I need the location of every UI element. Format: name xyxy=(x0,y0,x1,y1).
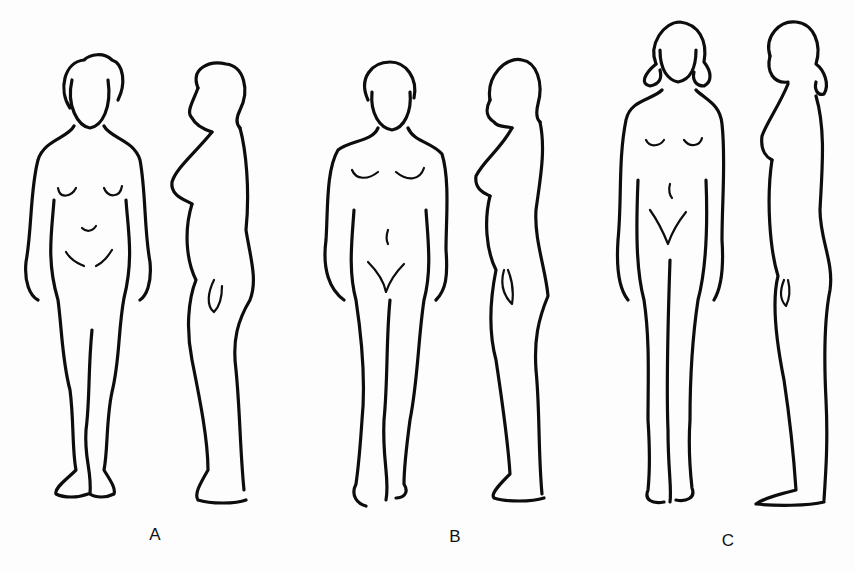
figure-b-side xyxy=(476,59,548,501)
label-a: A xyxy=(149,525,160,545)
label-c: C xyxy=(722,531,734,551)
figure-a-side xyxy=(172,63,254,503)
figure-a-front xyxy=(26,55,151,497)
body-type-diagram: A B C xyxy=(0,0,855,571)
figure-b-front xyxy=(325,62,447,506)
label-b: B xyxy=(449,527,460,547)
figure-c-side xyxy=(756,22,831,505)
figure-c-front xyxy=(617,22,723,503)
figures-drawing xyxy=(0,0,855,571)
